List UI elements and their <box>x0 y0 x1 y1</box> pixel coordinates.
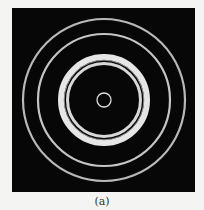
second-ring <box>38 34 170 166</box>
ring-pattern-graphic <box>12 8 195 192</box>
outer-ring <box>23 19 185 181</box>
bright-band-outer <box>61 57 147 143</box>
diffraction-pattern-image <box>12 8 195 192</box>
band-dark-line <box>64 60 144 140</box>
center-ring <box>97 93 111 107</box>
figure-caption: (a) <box>0 196 204 208</box>
bright-band-inner <box>68 64 141 137</box>
